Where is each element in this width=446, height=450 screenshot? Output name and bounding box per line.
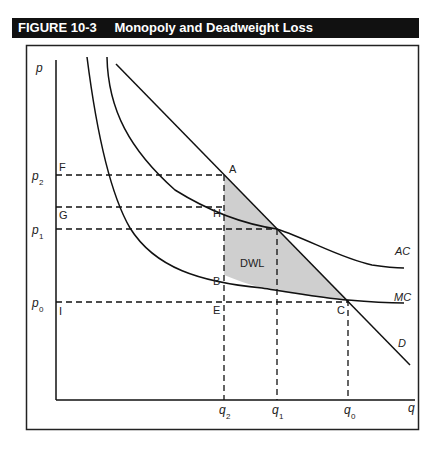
point-label-i: I (59, 305, 62, 317)
point-label-b: B (213, 275, 220, 287)
svg-text:1: 1 (279, 412, 284, 421)
svg-text:1: 1 (39, 232, 44, 241)
x-tick-q1: q 1 (272, 403, 284, 421)
point-label-g: G (59, 209, 68, 221)
point-label-h: H (213, 207, 221, 219)
point-label-e: E (213, 304, 220, 316)
y-tick-p2: p 2 (31, 169, 44, 187)
svg-text:q: q (272, 403, 279, 417)
mc-label: MC (394, 291, 411, 303)
ac-label: AC (394, 245, 410, 257)
x-tick-q0: q 0 (344, 403, 356, 421)
svg-text:2: 2 (39, 178, 44, 187)
demand-label: D (398, 337, 406, 349)
svg-text:q: q (219, 403, 226, 417)
chart: p q p 2 p 1 p 0 q 2 q 1 q 0 F G I A H B … (0, 0, 446, 450)
svg-text:p: p (31, 296, 39, 310)
svg-text:0: 0 (39, 305, 44, 314)
point-label-f: F (59, 161, 66, 173)
point-label-a: A (229, 163, 237, 175)
x-tick-q2: q 2 (219, 403, 231, 421)
svg-text:p: p (31, 169, 39, 183)
figure-frame (27, 46, 419, 430)
demand-curve (116, 64, 410, 365)
svg-text:0: 0 (351, 412, 356, 421)
x-axis-label: q (408, 401, 415, 415)
svg-text:p: p (31, 223, 39, 237)
y-tick-p0: p 0 (31, 296, 44, 314)
y-tick-p1: p 1 (31, 223, 44, 241)
y-axis-label: p (35, 61, 43, 75)
point-label-c: C (337, 304, 345, 316)
dwl-label: DWL (240, 257, 264, 269)
svg-text:q: q (344, 403, 351, 417)
svg-text:2: 2 (226, 412, 231, 421)
